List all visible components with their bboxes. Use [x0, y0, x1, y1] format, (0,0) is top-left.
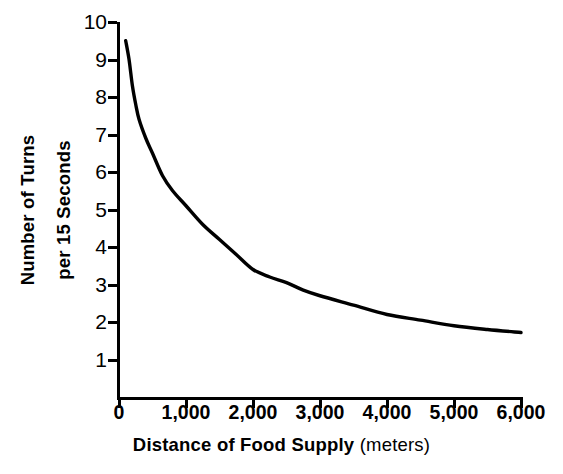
x-axis-title: Distance of Food Supply (meters)	[0, 436, 563, 455]
y-axis-tick-label: 10	[77, 11, 107, 32]
y-axis-title-line-2: per 15 Seconds	[53, 80, 75, 340]
y-axis-tick-label: 6	[77, 161, 107, 182]
x-axis-tick-labels: 01,0002,0003,0004,0005,0006,000	[119, 403, 521, 429]
x-axis-tick-label: 0	[114, 403, 125, 423]
data-curve-layer	[119, 22, 521, 400]
y-axis-tick-label: 5	[77, 199, 107, 220]
plot-area	[119, 22, 521, 397]
x-axis-title-units-text: (meters)	[360, 434, 430, 455]
y-axis-tick	[108, 246, 117, 249]
x-axis-tick-label: 5,000	[430, 403, 479, 423]
y-axis-tick-labels: 12345678910	[75, 22, 107, 402]
y-axis-tick	[108, 171, 117, 174]
y-axis-tick-label: 2	[77, 311, 107, 332]
x-axis-tick-label: 1,000	[162, 403, 211, 423]
y-axis-tick-label: 8	[77, 86, 107, 107]
y-axis-tick	[108, 209, 117, 212]
chart-figure: Number of Turns per 15 Seconds 123456789…	[0, 0, 563, 474]
y-axis-tick	[108, 359, 117, 362]
y-axis-tick-label: 3	[77, 274, 107, 295]
x-axis-title-text: Distance of Food Supply	[133, 434, 354, 455]
x-axis-tick-label: 3,000	[296, 403, 345, 423]
y-axis-tick-label: 7	[77, 124, 107, 145]
x-axis-tick-label: 4,000	[363, 403, 412, 423]
y-axis-tick	[108, 134, 117, 137]
y-axis-title-line-1: Number of Turns	[17, 80, 39, 340]
y-axis-tick	[108, 321, 117, 324]
y-axis-tick-label: 4	[77, 236, 107, 257]
y-axis-tick-label: 9	[77, 49, 107, 70]
y-axis-tick	[108, 59, 117, 62]
y-axis-tick	[108, 21, 117, 24]
x-axis-tick-label: 6,000	[497, 403, 546, 423]
y-axis-tick	[108, 284, 117, 287]
data-curve-line	[126, 41, 521, 333]
x-axis-tick-label: 2,000	[229, 403, 278, 423]
y-axis-tick-label: 1	[77, 349, 107, 370]
y-axis-tick	[108, 96, 117, 99]
